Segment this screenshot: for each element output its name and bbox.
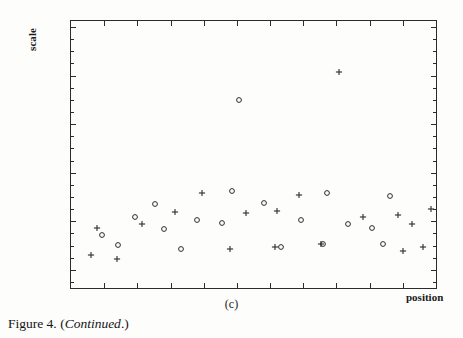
x-axis-tick-top [137,21,138,26]
y-axis-tick [71,76,76,77]
data-point-circle-marker [345,220,352,227]
y-axis-tick-right [433,161,436,162]
data-point-circle-marker [115,242,122,249]
y-axis-tick [71,63,74,64]
x-axis-tick [336,283,337,288]
y-axis-tick [71,197,74,198]
y-axis-tick-right [433,88,436,89]
y-axis-tick [71,161,74,162]
data-point-plus-marker [296,191,303,198]
x-axis-tick [204,283,205,288]
y-axis-tick [71,233,74,234]
data-point-plus-marker [139,220,146,227]
y-axis-tick-right [431,173,436,174]
x-axis-tick-top [104,21,105,26]
x-axis-tick [270,283,271,288]
y-axis-tick [71,209,74,210]
data-point-plus-marker [172,208,179,215]
figure-page: scale position (c) Figure 4. (Continued.… [0,0,463,338]
y-axis-tick-right [433,185,436,186]
data-point-circle-marker [193,216,200,223]
figure-caption: Figure 4. (Continued.) [8,316,129,332]
y-axis-tick-right [431,27,436,28]
data-point-plus-marker [88,251,95,258]
data-point-plus-marker [409,220,416,227]
y-axis-tick-right [433,258,436,259]
data-point-circle-marker [99,231,106,238]
data-point-plus-marker [243,210,250,217]
data-point-plus-marker [427,206,434,213]
data-point-plus-marker [226,246,233,253]
data-point-circle-marker [228,187,235,194]
data-point-circle-marker [380,240,387,247]
y-axis-tick [71,173,76,174]
y-axis-tick-right [433,39,436,40]
data-point-circle-marker [297,216,304,223]
x-axis-tick [403,283,404,288]
data-point-plus-marker [420,243,427,250]
data-point-circle-marker [261,199,268,206]
panel-label: (c) [0,297,463,312]
y-axis-tick-right [433,100,436,101]
y-axis-tick [71,136,74,137]
plot-frame [70,20,437,289]
data-point-plus-marker [272,243,279,250]
y-axis-tick-right [431,270,436,271]
y-axis-tick [71,258,74,259]
x-axis-tick [137,283,138,288]
data-point-plus-marker [113,255,120,262]
y-axis-tick-right [433,51,436,52]
data-point-circle-marker [323,190,330,197]
y-axis-tick-right [431,76,436,77]
y-axis-tick [71,282,74,283]
y-axis-tick-right [433,148,436,149]
data-point-circle-marker [177,246,184,253]
y-axis-tick [71,88,74,89]
y-axis-tick-right [433,63,436,64]
y-axis-tick-right [433,136,436,137]
y-axis-tick [71,100,74,101]
y-axis-tick [71,39,74,40]
plot-area [71,21,436,288]
x-axis-tick-top [237,21,238,26]
data-point-plus-marker [93,224,100,231]
y-axis-tick [71,27,76,28]
caption-continued-word: Continued [65,316,121,331]
data-point-plus-marker [360,214,367,221]
y-axis-tick [71,270,76,271]
y-axis-tick-right [433,197,436,198]
y-axis-tick [71,124,76,125]
y-axis-tick [71,221,76,222]
y-axis-tick-right [431,124,436,125]
x-axis-tick-top [303,21,304,26]
y-axis-tick-right [433,233,436,234]
x-axis-tick [370,283,371,288]
data-point-circle-marker [151,200,158,207]
data-point-circle-marker [131,214,138,221]
y-axis-label: scale [26,22,44,56]
data-point-circle-marker [219,219,226,226]
x-axis-tick [303,283,304,288]
caption-figure-number: Figure 4. [8,316,57,331]
data-point-plus-marker [199,190,206,197]
y-axis-tick-right [431,221,436,222]
y-axis-tick-right [433,246,436,247]
x-axis-tick-top [336,21,337,26]
x-axis-tick-top [403,21,404,26]
y-axis-tick [71,148,74,149]
y-axis-tick [71,185,74,186]
x-axis-tick-top [270,21,271,26]
data-point-circle-marker [235,96,242,103]
y-axis-tick [71,246,74,247]
data-point-plus-marker [394,211,401,218]
data-point-plus-marker [336,68,343,75]
x-axis-tick [237,283,238,288]
y-axis-tick [71,51,74,52]
caption-paren-close: .) [121,316,129,331]
data-point-circle-marker [369,224,376,231]
x-axis-tick [104,283,105,288]
x-axis-tick-top [171,21,172,26]
data-point-plus-marker [274,207,281,214]
x-axis-tick-top [370,21,371,26]
x-axis-tick [171,283,172,288]
